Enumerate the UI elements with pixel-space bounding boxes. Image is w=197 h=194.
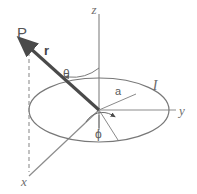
loop-radius-label: a <box>115 85 122 97</box>
current-label: I <box>152 78 159 93</box>
x-axis-label: x <box>20 174 27 189</box>
y-axis-label: y <box>177 103 185 118</box>
azimuth-reference-segment <box>99 110 118 140</box>
theta-angle-arc <box>68 68 99 77</box>
diagram-canvas: z y x P r θ ϕ a I <box>0 0 197 194</box>
field-point-label: P <box>17 24 27 41</box>
current-loop-diagram: z y x P r θ ϕ a I <box>0 0 197 194</box>
theta-angle-label: θ <box>63 67 70 81</box>
z-axis-label: z <box>90 2 96 17</box>
position-vector-label: r <box>44 43 49 58</box>
x-axis-line <box>29 110 99 176</box>
phi-angle-label: ϕ <box>95 127 102 141</box>
